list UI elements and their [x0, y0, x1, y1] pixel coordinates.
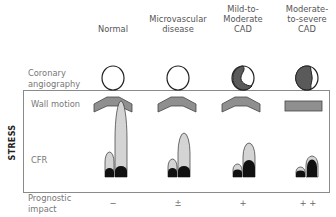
- impact-mild: +: [223, 198, 263, 208]
- impact-text: ±: [174, 198, 181, 208]
- wall-motion-normal-icon: [94, 97, 132, 112]
- diagram-graphics: [0, 0, 336, 217]
- impact-normal: −: [93, 198, 133, 208]
- impact-text: −: [109, 198, 116, 208]
- impact-severe: + +: [288, 198, 328, 208]
- cfr-normal-icon: [105, 101, 127, 177]
- cfr-severe-icon: [296, 156, 318, 177]
- angiography-mild-stenosis-icon: [232, 66, 254, 90]
- impact-microvascular: ±: [158, 198, 198, 208]
- angiography-normal-icon: [102, 66, 124, 90]
- wall-motion-severe-icon: [285, 101, 322, 111]
- impact-text: + +: [300, 198, 317, 208]
- cfr-mild-icon: [233, 143, 255, 177]
- angiography-severe-stenosis-icon: [296, 66, 318, 90]
- cfr-microvascular-icon: [168, 133, 190, 177]
- wall-motion-microvascular-icon: [158, 97, 196, 112]
- angiography-microvascular-icon: [167, 66, 189, 90]
- wall-motion-mild-icon: [222, 97, 260, 112]
- impact-text: +: [239, 198, 246, 208]
